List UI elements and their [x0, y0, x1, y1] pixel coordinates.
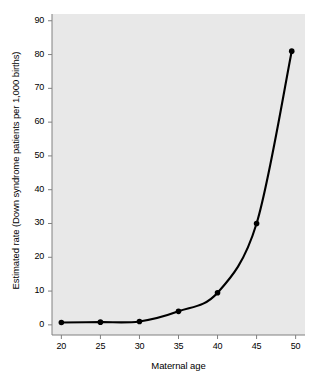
y-axis-tick-label: 20 [18, 252, 44, 261]
data-point-marker [59, 320, 65, 326]
x-axis-title: Maternal age [52, 360, 305, 371]
x-axis-tick-label: 20 [47, 342, 75, 351]
data-point-marker [137, 319, 143, 325]
x-axis-tick-label: 45 [243, 342, 271, 351]
x-axis-tick-label: 50 [282, 342, 310, 351]
y-axis-tick-label: 90 [18, 16, 44, 25]
y-axis-tick-label: 10 [18, 286, 44, 295]
y-axis-tick-label: 50 [18, 151, 44, 160]
x-axis-tick-label: 40 [204, 342, 232, 351]
x-axis-ticks [61, 335, 295, 339]
plot-canvas [0, 0, 312, 381]
data-point-marker [289, 48, 295, 54]
data-line-series [61, 51, 291, 322]
data-point-marker [98, 319, 104, 325]
data-point-markers [59, 48, 295, 325]
y-axis-ticks [48, 21, 52, 325]
y-axis-tick-label: 60 [18, 117, 44, 126]
y-axis-tick-label: 80 [18, 50, 44, 59]
chart-figure: 0102030405060708090 20253035404550 Mater… [0, 0, 312, 381]
x-axis-tick-labels: 20253035404550 [0, 342, 312, 356]
data-point-marker [215, 290, 221, 296]
y-axis-tick-label: 70 [18, 83, 44, 92]
y-axis-tick-label: 0 [18, 320, 44, 329]
x-axis-tick-label: 30 [125, 342, 153, 351]
data-point-marker [176, 309, 182, 315]
y-axis-tick-label: 30 [18, 218, 44, 227]
y-axis-tick-label: 40 [18, 185, 44, 194]
data-point-marker [254, 221, 260, 227]
x-axis-tick-label: 25 [86, 342, 114, 351]
x-axis-tick-label: 35 [165, 342, 193, 351]
y-axis-title: Estimated rate (Down syndrome patients p… [10, 1, 21, 341]
